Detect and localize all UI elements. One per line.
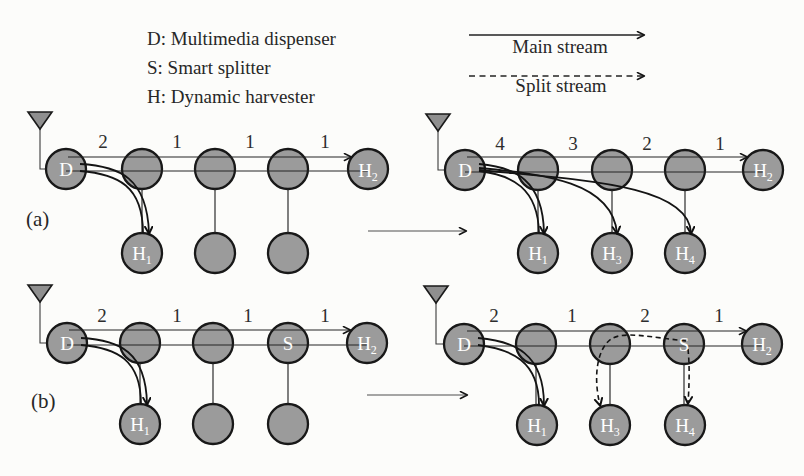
node-label-d: D [59,159,73,180]
node-relay-1 [516,324,556,364]
panel-a-initial: 2 1 1 1 D H2 H1 [28,112,388,273]
main-stream-label: Main stream [512,36,608,57]
caption-a: (a) [26,207,49,231]
legend-key: D: Multimedia dispenser S: Smart splitte… [147,28,337,107]
edge-weight: 2 [642,133,652,154]
antenna-triangle [28,285,52,302]
figure-multimedia-stream-diagram: D: Multimedia dispenser S: Smart splitte… [0,0,804,476]
edge-weight: 2 [98,131,108,152]
node-relay-1 [122,149,162,189]
node-label-s: S [283,333,294,354]
antenna-stem [438,130,445,170]
node-relay-2 [195,149,235,189]
node-relay-1 [518,150,558,190]
edge-weight: 1 [715,133,725,154]
panel-a-final: 4 3 2 1 D H2 H1 H3 H4 [426,114,783,273]
edge-weight: 1 [245,131,255,152]
edge-weight: 4 [495,133,505,154]
node-label-d: D [458,160,472,181]
node-label-d: D [457,334,471,355]
edge-weight: 2 [97,305,107,326]
split-stream-label: Split stream [515,75,607,96]
legend-key-dispenser: D: Multimedia dispenser [147,28,337,49]
edge-weight: 1 [320,131,330,152]
panel-b-final: 2 1 2 1 D S H2 H1 H3 H4 [424,286,782,445]
node-idle-1 [193,404,233,444]
antenna-triangle [426,114,450,131]
edge-weight: 1 [320,305,330,326]
panel-b-initial: 2 1 1 1 D S H2 H1 [28,285,387,444]
antenna-icon [424,286,448,344]
antenna-stem [436,302,444,344]
node-relay-2 [592,150,632,190]
node-relay-1 [120,323,160,363]
node-idle-2 [268,233,308,273]
node-relay-2 [193,323,233,363]
edge-weight: 1 [714,305,724,326]
antenna-stem [40,128,46,169]
node-relay-2 [590,324,630,364]
antenna-triangle [424,286,448,303]
antenna-stem [40,301,47,343]
edge-weight: 2 [489,305,499,326]
node-relay-3 [665,150,705,190]
edge-weight: 1 [567,305,577,326]
caption-b: (b) [31,389,56,413]
node-idle-2 [268,404,308,444]
legend-key-harvester: H: Dynamic harvester [147,86,315,107]
antenna-triangle [28,112,52,129]
node-idle-1 [195,233,235,273]
node-label-s: S [679,334,690,355]
edge-weight: 1 [243,305,253,326]
node-relay-3 [268,149,308,189]
diagram-canvas: D: Multimedia dispenser S: Smart splitte… [0,0,804,476]
node-label-d: D [60,333,74,354]
edge-weight: 3 [568,133,578,154]
legend-streams: Main stream Split stream [469,35,644,96]
legend-key-splitter: S: Smart splitter [147,57,271,78]
edge-weight: 2 [640,305,650,326]
edge-weight: 1 [172,305,182,326]
edge-weight: 1 [172,131,182,152]
